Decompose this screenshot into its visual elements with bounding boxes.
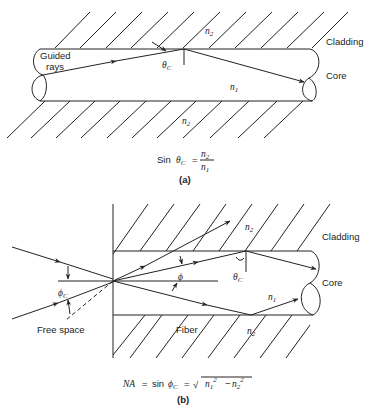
phi-arrow-bottom <box>172 283 177 291</box>
phi-arrow-top <box>180 256 182 264</box>
svg-text:n2: n2 <box>201 149 210 161</box>
n1-core-label: n1 <box>230 82 238 94</box>
svg-text:ϕC: ϕC <box>168 379 178 391</box>
equation-b: NA = sin ϕC = √ n12 − n22 <box>122 376 252 391</box>
equation-a: Sin θC = n2 n1 <box>157 149 214 174</box>
svg-text:NA: NA <box>122 379 135 389</box>
incoming-ray-lower <box>12 303 58 319</box>
label-free-space: Free space <box>37 324 85 335</box>
svg-text:=: = <box>192 154 198 165</box>
theta-c-label-b: θC <box>233 272 243 284</box>
n2-bottom-label-b: n2 <box>247 326 256 338</box>
incoming-ray-upper <box>12 247 60 262</box>
label-cladding-b: Cladding <box>322 231 360 242</box>
reflected-ray-upper <box>246 251 316 269</box>
svg-text:=: = <box>184 378 190 389</box>
svg-text:−: − <box>225 378 231 389</box>
core-outline-b <box>113 251 320 315</box>
guided-ray-segment-2 <box>116 49 184 61</box>
figure-a: Guided rays Cladding Core n2 n2 n1 θC Si… <box>7 12 364 185</box>
phi-c-arrow-bottom <box>68 300 70 314</box>
label-rays: rays <box>46 61 64 72</box>
svg-text:θC: θC <box>176 155 186 167</box>
n2-bottom-label: n2 <box>182 116 191 128</box>
svg-text:=: = <box>142 378 148 389</box>
svg-text:sin: sin <box>152 378 164 389</box>
label-guided: Guided <box>40 50 71 61</box>
guided-ray-lower <box>113 281 207 305</box>
guided-ray-upper <box>113 262 198 281</box>
svg-text:n12: n12 <box>205 376 217 391</box>
core-outline <box>32 49 319 101</box>
n2-top-label-b: n2 <box>245 222 254 234</box>
reflected-ray <box>184 49 304 82</box>
phi-label: ϕ <box>178 272 183 282</box>
theta-c-arrow <box>152 42 166 51</box>
svg-text:n22: n22 <box>232 376 244 391</box>
figure-b: Cladding Core Free space Fiber n2 n2 n1 … <box>12 204 360 405</box>
cladding-hatching-top-b <box>113 204 330 254</box>
cladding-hatching-bottom-b <box>113 315 310 358</box>
escaping-ray <box>113 266 145 281</box>
dashed-extension <box>66 281 113 320</box>
caption-a: (a) <box>179 174 191 185</box>
label-core-a: Core <box>326 70 347 81</box>
svg-text:Sin: Sin <box>157 154 171 165</box>
fiber-optics-diagram: Guided rays Cladding Core n2 n2 n1 θC Si… <box>0 0 376 416</box>
n2-top-label: n2 <box>205 26 214 38</box>
caption-b: (b) <box>177 394 189 405</box>
phi-c-label: ϕC <box>58 288 68 300</box>
cladding-hatching-bottom <box>7 101 303 138</box>
n1-core-label-b: n1 <box>268 292 276 304</box>
cladding-hatching-top <box>55 12 348 48</box>
label-core-b: Core <box>322 277 343 288</box>
label-cladding-a: Cladding <box>326 36 364 47</box>
svg-text:√: √ <box>193 379 199 390</box>
svg-text:n1: n1 <box>201 162 209 174</box>
theta-c-label: θC <box>162 60 172 72</box>
label-fiber: Fiber <box>176 324 198 335</box>
